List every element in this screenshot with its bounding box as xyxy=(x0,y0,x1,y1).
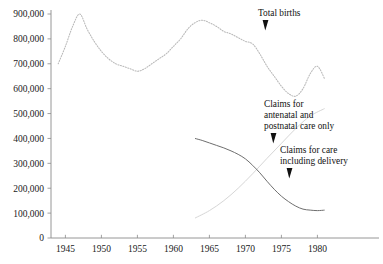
x-axis-tick-label: 1945 xyxy=(56,244,75,254)
annotation-line: antenatal and xyxy=(264,110,334,121)
annotation-label-including-delivery: Claims for careincluding delivery xyxy=(280,145,348,167)
y-axis-tick-label: 200,000 xyxy=(13,184,44,194)
annotation-line: Claims for xyxy=(264,99,334,110)
x-axis-tick-label: 1950 xyxy=(92,244,111,254)
x-axis-tick-label: 1960 xyxy=(164,244,183,254)
y-axis-tick-label: 900,000 xyxy=(13,9,44,19)
y-axis-tick-label: 600,000 xyxy=(13,84,44,94)
x-axis-tick-label: 1955 xyxy=(128,244,147,254)
y-axis-tick-label: 0 xyxy=(39,233,44,243)
annotation-label-antenatal-postnatal: Claims forantenatal andpostnatal care on… xyxy=(264,99,334,132)
annotation-line: Claims for care xyxy=(280,145,348,156)
y-axis-tick-label: 400,000 xyxy=(13,134,44,144)
x-axis-tick-label: 1965 xyxy=(200,244,219,254)
x-axis-tick-label: 1980 xyxy=(308,244,327,254)
annotation-line: including delivery xyxy=(280,156,348,167)
x-axis-tick-label: 1975 xyxy=(272,244,291,254)
annotation-label-total-births: Total births xyxy=(258,8,300,19)
births-and-claims-line-chart: 0100,000200,000300,000400,000500,000600,… xyxy=(0,0,383,264)
y-axis-tick-label: 700,000 xyxy=(13,59,44,69)
series-line-total-births xyxy=(58,14,324,96)
y-axis-tick-label: 500,000 xyxy=(13,109,44,119)
chart-canvas: 0100,000200,000300,000400,000500,000600,… xyxy=(0,0,383,264)
y-axis-tick-label: 800,000 xyxy=(13,34,44,44)
annotation-line: Total births xyxy=(258,8,300,19)
y-axis-tick-label: 100,000 xyxy=(13,209,44,219)
x-axis-tick-label: 1970 xyxy=(236,244,255,254)
y-axis-tick-label: 300,000 xyxy=(13,159,44,169)
y-axis-ticks: 0100,000200,000300,000400,000500,000600,… xyxy=(13,9,51,243)
annotation-line: postnatal care only xyxy=(264,121,334,132)
